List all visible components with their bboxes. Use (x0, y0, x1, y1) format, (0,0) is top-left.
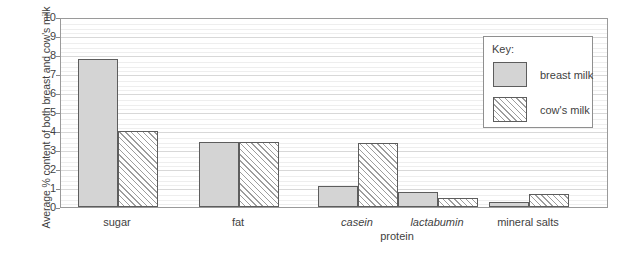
gridline-minor (61, 33, 607, 34)
y-tick-label: 6 (34, 88, 56, 99)
legend: Key: breast milkcow's milk (483, 36, 593, 128)
y-tick-label: 1 (34, 183, 56, 194)
bar (398, 192, 438, 207)
bar (489, 202, 529, 207)
y-tick-mark (56, 151, 60, 152)
x-tick-label: fat (178, 216, 298, 228)
y-tick-label: 4 (34, 126, 56, 137)
y-axis-ticks: 012345678910 (34, 0, 56, 260)
y-tick-mark (56, 208, 60, 209)
y-tick-label: 5 (34, 107, 56, 118)
y-tick-mark (56, 170, 60, 171)
legend-title: Key: (492, 43, 514, 55)
bar (199, 142, 239, 207)
bar (438, 198, 478, 207)
y-tick-mark (56, 75, 60, 76)
y-tick-mark (56, 94, 60, 95)
bar (118, 131, 158, 207)
y-tick-label: 0 (34, 202, 56, 213)
bar (78, 59, 118, 207)
legend-swatch (493, 97, 527, 122)
x-tick-label: mineral salts (468, 216, 588, 228)
gridline (61, 18, 607, 19)
legend-label: breast milk (540, 69, 593, 81)
y-tick-label: 3 (34, 145, 56, 156)
gridline-minor (61, 29, 607, 30)
bar (358, 143, 398, 207)
bar (239, 142, 279, 207)
y-tick-label: 7 (34, 69, 56, 80)
y-tick-mark (56, 113, 60, 114)
legend-label: cow's milk (540, 104, 590, 116)
y-tick-mark (56, 132, 60, 133)
bar (318, 186, 358, 207)
y-tick-mark (56, 56, 60, 57)
y-tick-label: 8 (34, 50, 56, 61)
y-tick-label: 2 (34, 164, 56, 175)
y-tick-label: 10 (34, 12, 56, 23)
x-group-label: protein (337, 230, 457, 242)
y-tick-label: 9 (34, 31, 56, 42)
y-tick-mark (56, 37, 60, 38)
y-tick-mark (56, 18, 60, 19)
bar-chart: Average % content of both breast and cow… (0, 0, 635, 260)
gridline-minor (61, 24, 607, 25)
x-tick-label: sugar (57, 216, 177, 228)
legend-swatch (493, 62, 527, 87)
bar (529, 194, 569, 207)
y-tick-mark (56, 189, 60, 190)
gridline-minor (61, 128, 607, 129)
